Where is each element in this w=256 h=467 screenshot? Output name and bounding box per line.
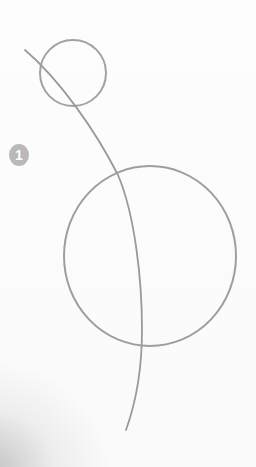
curve-line <box>25 50 142 430</box>
pencil-sketch <box>0 0 256 467</box>
step-number: 1 <box>15 148 23 162</box>
large-circle <box>64 166 236 346</box>
small-circle <box>40 40 106 106</box>
step-number-badge: 1 <box>9 144 29 166</box>
